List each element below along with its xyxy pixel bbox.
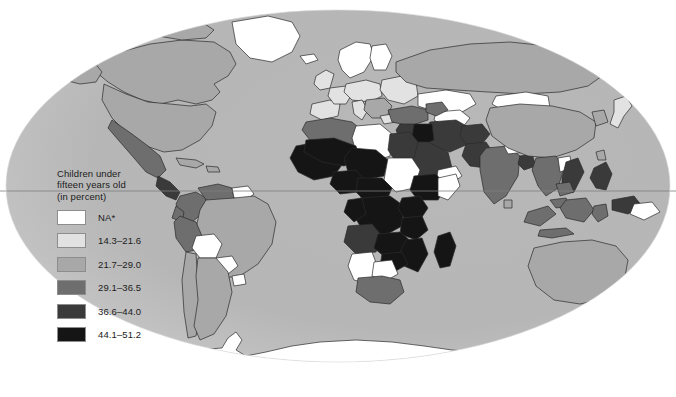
legend-label-class-1: 14.3–21.6 — [98, 235, 141, 246]
legend-label-class-3: 29.1–36.5 — [98, 282, 141, 293]
world-map-figure: Children under fifteen years old (in per… — [0, 0, 676, 397]
legend-item-class-1: 14.3–21.6 — [57, 231, 169, 251]
region-hispaniola — [206, 166, 220, 172]
legend-swatch-class-2 — [57, 257, 86, 272]
legend-item-class-5: 44.1–51.2 — [57, 325, 169, 345]
legend-swatch-class-1 — [57, 233, 86, 248]
legend-swatch-class-4 — [57, 304, 86, 319]
legend-label-class-2: 21.7–29.0 — [98, 259, 141, 270]
legend-item-na: NA* — [57, 207, 169, 227]
region-sri-lanka — [504, 200, 512, 208]
legend-item-class-2: 21.7–29.0 — [57, 254, 169, 274]
region-uruguay — [232, 274, 246, 286]
legend-item-class-4: 36.6–44.0 — [57, 301, 169, 321]
legend-swatch-class-3 — [57, 280, 86, 295]
legend-label-class-4: 36.6–44.0 — [98, 306, 141, 317]
legend-label-class-5: 44.1–51.2 — [98, 329, 141, 340]
legend-item-class-3: 29.1–36.5 — [57, 278, 169, 298]
legend-swatch-class-5 — [57, 327, 86, 342]
region-taiwan — [596, 150, 606, 160]
legend-swatch-na — [57, 210, 86, 225]
map-legend: Children under fifteen years old (in per… — [57, 168, 169, 348]
legend-label-na: NA* — [98, 212, 115, 223]
legend-title: Children under fifteen years old (in per… — [57, 168, 169, 202]
